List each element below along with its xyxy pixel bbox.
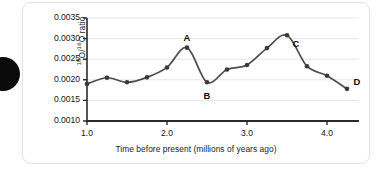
data-point: [345, 87, 350, 92]
x-axis-tick-label: 1.0: [70, 128, 104, 138]
x-axis-title: Time before present (millions of years a…: [23, 144, 369, 154]
y-axis-tick-label: 0.0030: [23, 33, 80, 43]
data-point: [325, 73, 330, 78]
axis-ticks: [83, 18, 327, 125]
gridlines: [87, 18, 359, 100]
data-point: [145, 75, 150, 80]
data-point: [85, 82, 90, 87]
data-point: [125, 80, 130, 85]
chart-plot-area: 18O/16O ratio Time before present (milli…: [23, 3, 369, 163]
data-point: [165, 65, 170, 70]
chart-figure-card: 18O/16O ratio Time before present (milli…: [22, 2, 370, 164]
data-point: [105, 75, 110, 80]
axis-spines: [86, 18, 359, 121]
y-axis-tick-label: 0.0020: [23, 74, 80, 84]
point-label-c: C: [288, 38, 304, 49]
point-label-a: A: [179, 32, 195, 43]
y-axis-title-sup-16: 16: [75, 42, 82, 49]
y-axis-tick-label: 0.0025: [23, 53, 80, 63]
x-axis-tick-label: 2.0: [150, 128, 184, 138]
data-point: [265, 46, 270, 51]
x-axis-tick-label: 3.0: [230, 128, 264, 138]
data-point: [225, 67, 230, 72]
data-point: [285, 33, 290, 38]
point-label-d: D: [349, 76, 365, 87]
point-label-b: B: [199, 90, 215, 101]
screenshot-page: 18O/16O ratio Time before present (milli…: [0, 0, 382, 170]
data-point: [185, 45, 190, 50]
x-axis-tick-label: 4.0: [310, 128, 344, 138]
data-point: [205, 80, 210, 85]
bullet-point-marker: [0, 57, 20, 91]
y-axis-tick-label: 0.0010: [23, 115, 80, 125]
y-axis-tick-label: 0.0035: [23, 12, 80, 22]
data-point: [305, 64, 310, 69]
y-axis-tick-label: 0.0015: [23, 94, 80, 104]
data-point: [245, 63, 250, 68]
